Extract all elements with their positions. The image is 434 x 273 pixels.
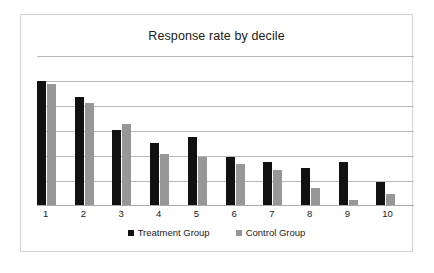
x-axis-label-2: 2 [75,208,113,219]
bar-treatment-3 [112,130,121,206]
legend-swatch-icon [236,230,242,236]
x-axis-label-3: 3 [112,208,150,219]
bar-control-3 [122,124,131,206]
x-axis-line [37,205,414,206]
bar-control-2 [85,103,94,206]
x-axis-label-4: 4 [150,208,188,219]
x-axis-label-6: 6 [226,208,264,219]
bar-group [376,56,414,206]
x-axis-label-10: 10 [376,208,414,219]
legend-swatch-icon [128,230,134,236]
bar-treatment-6 [226,157,235,206]
bar-treatment-10 [376,182,385,206]
bar-group [339,56,377,206]
chart-legend: Treatment GroupControl Group [21,227,412,238]
chart-card: Response rate by decile 12345678910 Trea… [20,14,413,252]
bar-control-8 [311,188,320,206]
bar-group [112,56,150,206]
legend-item[interactable]: Treatment Group [128,227,210,238]
x-axis-labels: 12345678910 [37,208,414,219]
bar-treatment-4 [150,143,159,206]
x-axis-label-9: 9 [339,208,377,219]
bar-group [263,56,301,206]
bar-treatment-2 [75,97,84,206]
legend-label: Treatment Group [138,227,210,238]
bar-group [150,56,188,206]
x-axis-label-1: 1 [37,208,75,219]
bar-control-5 [198,157,207,206]
x-axis-label-7: 7 [263,208,301,219]
x-axis-label-5: 5 [188,208,226,219]
legend-item[interactable]: Control Group [236,227,306,238]
legend-label: Control Group [246,227,306,238]
bar-group [188,56,226,206]
bar-treatment-1 [37,81,46,206]
bar-group [37,56,75,206]
bar-control-1 [47,84,56,206]
bar-treatment-9 [339,162,348,206]
bar-group [226,56,264,206]
chart-title: Response rate by decile [21,29,412,43]
bar-treatment-7 [263,162,272,206]
plot-area [37,56,414,206]
bar-control-7 [273,170,282,206]
x-axis-label-8: 8 [301,208,339,219]
bar-control-4 [160,154,169,206]
bar-treatment-8 [301,168,310,206]
bar-control-6 [236,164,245,206]
bar-group [301,56,339,206]
bar-treatment-5 [188,137,197,206]
bar-group [75,56,113,206]
bar-series-container [37,56,414,206]
